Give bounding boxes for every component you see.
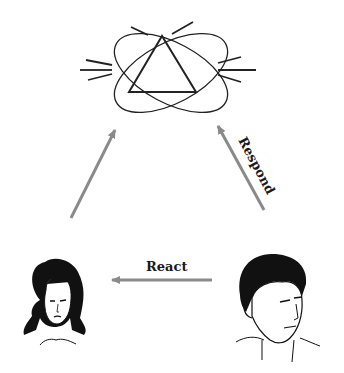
man-portrait-icon <box>236 254 320 362</box>
arrow-woman-to-symbol <box>71 130 115 218</box>
respond-label: Respond <box>235 134 278 196</box>
woman-portrait-icon <box>24 259 86 345</box>
diagram-canvas: Respond React <box>0 0 344 373</box>
triangle-atom-symbol-icon <box>80 17 256 128</box>
react-label: React <box>146 259 187 274</box>
